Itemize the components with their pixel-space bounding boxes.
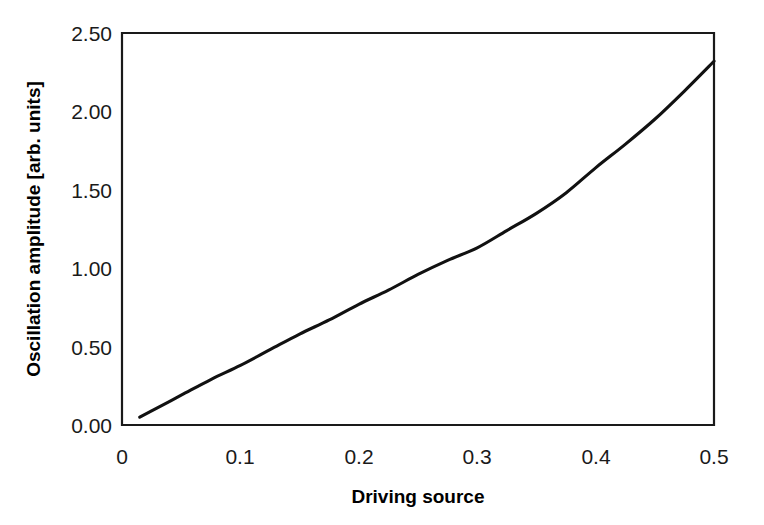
y-axis-title: Oscillation amplitude [arb. units] xyxy=(23,81,44,377)
y-tick-label: 0.50 xyxy=(71,336,112,359)
x-tick-label: 0.1 xyxy=(225,445,254,468)
x-axis-title: Driving source xyxy=(351,486,484,507)
x-axis-tick-labels: 0 0.1 0.2 0.3 0.4 0.5 xyxy=(116,445,728,468)
chart-figure: 2.50 2.00 1.50 1.00 0.50 0.00 0 0.1 0.2 … xyxy=(0,0,764,525)
data-series-line xyxy=(140,61,714,417)
x-tick-label: 0 xyxy=(116,445,128,468)
y-tick-label: 0.00 xyxy=(71,414,112,437)
x-tick-label: 0.4 xyxy=(581,445,611,468)
y-axis-tick-labels: 2.50 2.00 1.50 1.00 0.50 0.00 xyxy=(71,22,112,437)
x-tick-label: 0.3 xyxy=(462,445,491,468)
x-tick-label: 0.2 xyxy=(344,445,373,468)
x-tick-label: 0.5 xyxy=(699,445,728,468)
plot-frame xyxy=(122,33,714,425)
y-tick-label: 1.50 xyxy=(71,179,112,202)
chart-canvas: 2.50 2.00 1.50 1.00 0.50 0.00 0 0.1 0.2 … xyxy=(0,0,764,525)
y-tick-label: 2.00 xyxy=(71,100,112,123)
y-tick-label: 2.50 xyxy=(71,22,112,45)
y-tick-label: 1.00 xyxy=(71,257,112,280)
